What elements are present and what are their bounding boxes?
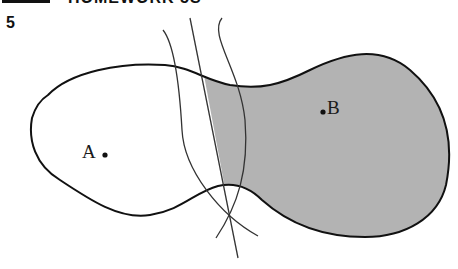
point-a-dot — [102, 152, 107, 157]
point-b-label: B — [327, 97, 340, 118]
point-a-label: A — [82, 141, 96, 162]
point-b-dot — [320, 109, 325, 114]
geometry-diagram: A B — [0, 0, 458, 269]
